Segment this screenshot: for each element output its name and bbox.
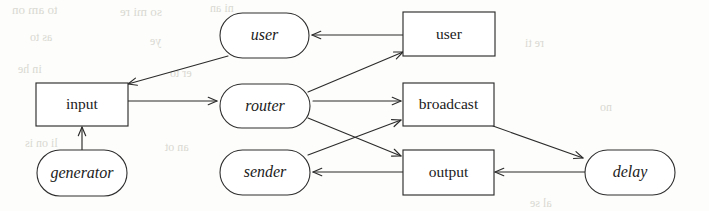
edge-generator-input: [78, 127, 85, 150]
node-delay[interactable]: delay: [585, 150, 675, 195]
edge-router-user_rect: [308, 52, 403, 92]
diagram-canvas: to am onso mi reni anas toyein heer toli…: [0, 0, 709, 211]
edges-group: [78, 31, 585, 175]
edge-broadcast-delay: [493, 126, 583, 159]
node-user_italic[interactable]: user: [220, 13, 309, 58]
edge-user_italic-input: [128, 56, 228, 85]
edge-line: [308, 52, 403, 92]
node-label: delay: [613, 163, 649, 181]
node-label: user: [436, 25, 463, 42]
edge-output-sender: [313, 168, 403, 175]
edge-input-router: [128, 97, 217, 104]
node-input[interactable]: input: [36, 83, 128, 126]
node-label: sender: [244, 163, 287, 180]
node-label: broadcast: [419, 95, 479, 112]
node-label: input: [66, 95, 99, 112]
node-broadcast[interactable]: broadcast: [403, 83, 494, 126]
node-label: output: [429, 163, 469, 180]
edge-user_rect-user_italic: [312, 31, 403, 38]
edge-line: [128, 56, 228, 84]
node-label: router: [245, 97, 285, 114]
edge-line: [493, 126, 583, 158]
node-router[interactable]: router: [220, 84, 310, 128]
process-graph: useruserinputrouterbroadcastgeneratorsen…: [0, 0, 709, 211]
node-sender[interactable]: sender: [220, 150, 310, 195]
node-label: user: [251, 26, 279, 43]
edge-delay-output: [495, 168, 585, 175]
node-user_rect[interactable]: user: [403, 12, 495, 56]
node-label: generator: [50, 164, 114, 182]
node-output[interactable]: output: [403, 150, 494, 195]
edge-router-broadcast: [313, 97, 401, 104]
nodes-group: useruserinputrouterbroadcastgeneratorsen…: [36, 12, 675, 196]
node-generator[interactable]: generator: [37, 150, 127, 196]
